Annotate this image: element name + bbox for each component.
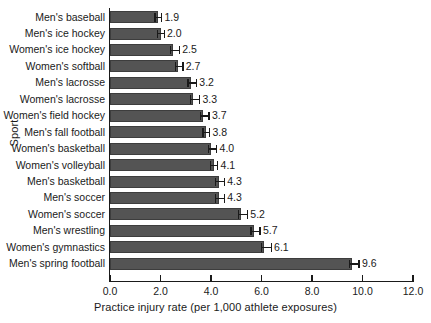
bar-value-label: 6.1 (274, 240, 289, 256)
bar-value-label: 4.3 (227, 174, 242, 190)
bar (110, 258, 352, 270)
category-label: Women's soccer (28, 207, 105, 223)
bar (110, 159, 214, 171)
error-bar-cap (210, 161, 211, 170)
category-label: Women's gymnastics (6, 240, 105, 256)
error-bar (250, 231, 259, 232)
error-bar-cap (261, 243, 262, 252)
bar-row: Men's spring football9.6 (0, 256, 431, 272)
category-label: Men's baseball (35, 10, 105, 26)
error-bar (170, 50, 179, 51)
bar-row: Men's basketball4.3 (0, 174, 431, 190)
error-bar (349, 263, 359, 264)
error-bar-cap (170, 46, 171, 55)
error-bar-cap (164, 30, 165, 39)
x-tick-label: 2.0 (141, 285, 181, 297)
error-bar (190, 99, 199, 100)
category-label: Women's lacrosse (20, 92, 105, 108)
category-label: Men's lacrosse (35, 75, 105, 91)
category-label: Men's soccer (43, 190, 105, 206)
error-bar-cap (250, 227, 251, 236)
category-label: Men's basketball (27, 174, 105, 190)
bar-row: Women's lacrosse3.3 (0, 92, 431, 108)
category-label: Women's volleyball (16, 158, 105, 174)
x-tick-label: 4.0 (191, 285, 231, 297)
category-label: Women's softball (26, 59, 105, 75)
x-tick-label: 6.0 (242, 285, 282, 297)
bar-value-label: 5.7 (263, 223, 278, 239)
bar (110, 225, 254, 237)
category-label: Women's basketball (12, 141, 105, 157)
bar-row: Women's gymnastics6.1 (0, 240, 431, 256)
x-tick-label: 10.0 (343, 285, 383, 297)
bar-value-label: 4.0 (220, 141, 235, 157)
bar (110, 192, 219, 204)
error-bar-cap (349, 260, 350, 269)
error-bar-cap (217, 161, 218, 170)
error-bar-cap (358, 260, 359, 269)
error-bar-cap (182, 62, 183, 71)
bar-value-label: 4.1 (221, 158, 236, 174)
bar (110, 126, 206, 138)
error-bar-cap (215, 178, 216, 187)
bar (110, 44, 173, 56)
bar-row: Women's volleyball4.1 (0, 158, 431, 174)
x-tick-label: 12.0 (393, 285, 431, 297)
bar-row: Women's field hockey3.7 (0, 108, 431, 124)
bar-value-label: 2.7 (186, 59, 201, 75)
bar-row: Women's soccer5.2 (0, 207, 431, 223)
error-bar-cap (247, 210, 248, 219)
bar-chart: Sport Men's baseball1.9Men's ice hockey2… (0, 0, 431, 323)
error-bar-cap (157, 30, 158, 39)
bar-row: Men's wrestling5.7 (0, 223, 431, 239)
error-bar-cap (190, 95, 191, 104)
error-bar-cap (154, 13, 155, 22)
bar-row: Women's basketball4.0 (0, 141, 431, 157)
error-bar-cap (199, 95, 200, 104)
category-label: Women's field hockey (3, 108, 105, 124)
bar-value-label: 2.0 (167, 26, 182, 42)
bar (110, 176, 219, 188)
bar-value-label: 3.8 (212, 125, 227, 141)
error-bar (238, 214, 247, 215)
category-label: Men's ice hockey (25, 26, 105, 42)
x-tick (160, 275, 161, 281)
error-bar-cap (200, 112, 201, 121)
bar-value-label: 2.5 (182, 42, 197, 58)
bar-row: Men's soccer4.3 (0, 190, 431, 206)
bar (110, 241, 264, 253)
x-tick (210, 275, 211, 281)
bar-row: Women's softball2.7 (0, 59, 431, 75)
error-bar-cap (208, 145, 209, 154)
bar-value-label: 9.6 (362, 256, 377, 272)
bar (110, 28, 161, 40)
category-label: Women's ice hockey (9, 42, 105, 58)
error-bar-cap (238, 210, 239, 219)
bar (110, 208, 241, 220)
error-bar-cap (179, 46, 180, 55)
x-axis-title: Practice injury rate (per 1,000 athlete … (0, 301, 431, 313)
error-bar-cap (224, 194, 225, 203)
bar-row: Men's fall football3.8 (0, 125, 431, 141)
bar-row: Men's lacrosse3.2 (0, 75, 431, 91)
error-bar-cap (216, 145, 217, 154)
error-bar-cap (259, 227, 260, 236)
x-tick (362, 275, 363, 281)
bar-row: Men's baseball1.9 (0, 10, 431, 26)
error-bar-cap (209, 128, 210, 137)
error-bar-cap (196, 79, 197, 88)
error-bar-cap (202, 128, 203, 137)
error-bar-cap (187, 79, 188, 88)
bar-value-label: 1.9 (165, 10, 180, 26)
bar-value-label: 3.7 (212, 108, 227, 124)
x-tick-label: 0.0 (90, 285, 130, 297)
x-tick (109, 275, 110, 281)
bar (110, 60, 178, 72)
bar (110, 110, 203, 122)
x-tick (311, 275, 312, 281)
category-label: Men's wrestling (33, 223, 105, 239)
category-label: Men's spring football (9, 256, 105, 272)
bar (110, 93, 193, 105)
bar-value-label: 4.3 (227, 190, 242, 206)
error-bar-cap (215, 194, 216, 203)
